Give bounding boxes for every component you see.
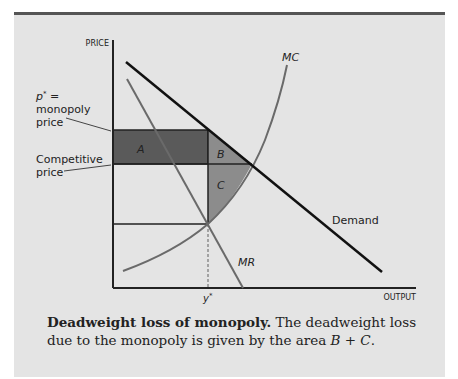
- monopoly-price-pointer: [66, 118, 111, 131]
- figure-caption: Deadweight loss of monopoly. The deadwei…: [47, 313, 427, 349]
- mc-curve: [123, 65, 287, 271]
- x-axis-label: OUTPUT: [383, 293, 416, 302]
- mc-label: MC: [282, 51, 299, 64]
- quantity-label: y*: [202, 292, 213, 304]
- region-b-label: B: [217, 148, 225, 161]
- competitive-price-label-line2: price: [36, 166, 64, 179]
- y-axis-label: PRICE: [86, 39, 109, 48]
- region-c: [208, 164, 252, 224]
- demand-label: Demand: [332, 214, 379, 227]
- caption-formula-b: B: [331, 332, 341, 348]
- caption-formula-end: .: [371, 332, 375, 348]
- mr-label: MR: [238, 256, 255, 269]
- demand-curve: [126, 62, 382, 272]
- monopoly-price-label-line1: p* =: [35, 90, 59, 103]
- region-a-label: A: [136, 143, 145, 156]
- monopoly-price-label-line2: monopoly: [36, 103, 91, 116]
- caption-formula-c: C: [360, 332, 370, 348]
- monopoly-price-label-line3: price: [36, 116, 64, 129]
- caption-title: Deadweight loss of monopoly: [47, 314, 267, 330]
- region-c-label: C: [217, 179, 225, 192]
- caption-formula-plus: +: [340, 332, 360, 348]
- region-a: [113, 130, 208, 164]
- competitive-price-label-line1: Competitive: [36, 153, 103, 166]
